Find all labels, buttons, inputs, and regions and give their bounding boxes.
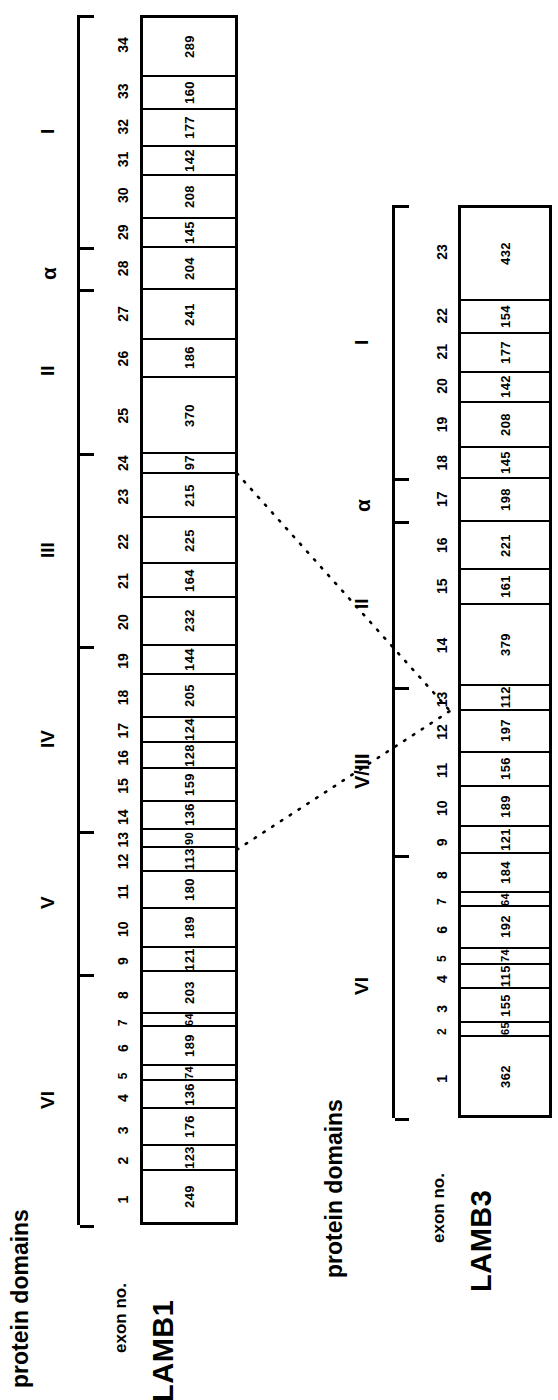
exon-number-label: 20 [428, 371, 456, 402]
domain-bracket-cap [80, 1225, 94, 1228]
exon-size-label: 221 [499, 534, 512, 557]
exon-box: 142 [143, 147, 235, 176]
domain-label: III [38, 524, 57, 576]
exon-box: 205 [143, 675, 235, 717]
exon-box: 208 [143, 176, 235, 219]
exon-box: 204 [143, 248, 235, 290]
gene-label-lamb3: LAMB3 [466, 1142, 496, 1292]
domain-label: α [352, 480, 373, 532]
domain-divider-tick [80, 974, 94, 977]
exon-box: 64 [143, 1014, 235, 1027]
domain-bracket-cap [80, 15, 94, 18]
exon-size-label: 115 [499, 965, 512, 987]
exon-number-label: 26 [108, 339, 138, 377]
exon-number-label: 6 [428, 909, 456, 951]
exon-box: 208 [461, 403, 549, 448]
exon-size-label: 123 [183, 1146, 196, 1169]
exon-size-label: 232 [183, 609, 196, 632]
exon-box: 90 [143, 830, 235, 849]
exon-box: 215 [143, 474, 235, 518]
exon-number-label: 21 [428, 332, 456, 370]
exon-size-label: 145 [183, 221, 196, 244]
exon-number-label: 23 [108, 474, 138, 518]
exon-number-label: 5 [108, 1068, 138, 1083]
exon-box: 197 [461, 711, 549, 754]
exon-number-label: 22 [428, 299, 456, 332]
domain-label: VI [352, 960, 371, 1012]
exon-box: 249 [143, 1171, 235, 1222]
exon-box: 145 [143, 219, 235, 249]
exon-size-label: 156 [499, 757, 512, 780]
exon-number-label: 11 [428, 754, 456, 788]
exon-size-label: 208 [499, 413, 512, 436]
exon-size-label: 225 [183, 529, 196, 552]
exon-size-label: 432 [499, 242, 512, 265]
exon-box: 164 [143, 564, 235, 598]
exon-size-label: 176 [183, 1115, 196, 1138]
exon-box: 176 [143, 1109, 235, 1145]
exon-box: 225 [143, 518, 235, 564]
exon-box: 432 [461, 208, 549, 301]
homology-dotted-line [237, 711, 450, 850]
exon-size-label: 160 [183, 81, 196, 104]
exon-number-axis-lamb1: 1234567891011121314151617181920212223242… [108, 15, 138, 1225]
exon-box: 113 [143, 848, 235, 871]
exon-number-label: 10 [428, 788, 456, 829]
domain-divider-tick [80, 831, 94, 834]
exon-box: 136 [143, 1081, 235, 1109]
exon-box: 203 [143, 972, 235, 1014]
exon-box: 121 [143, 948, 235, 973]
exon-size-label: 197 [499, 719, 512, 742]
domain-bracket-cap [395, 1118, 409, 1121]
exon-number-label: 31 [108, 145, 138, 174]
exon-number-label: 3 [428, 992, 456, 1026]
exon-box: 189 [461, 787, 549, 828]
exon-box: 221 [461, 522, 549, 570]
exon-box: 177 [461, 334, 549, 372]
exon-size-label: 189 [499, 795, 512, 818]
domain-divider-tick [80, 646, 94, 649]
domain-divider-tick [80, 453, 94, 456]
domain-label: I [38, 105, 57, 157]
exon-size-label: 186 [183, 346, 196, 369]
exon-number-label: 13 [428, 687, 456, 711]
exon-number-label: 7 [428, 895, 456, 909]
exon-number-label: 9 [428, 829, 456, 855]
exon-size-label: 64 [500, 893, 511, 906]
exon-box: 97 [143, 454, 235, 474]
exon-box: 112 [461, 686, 549, 710]
exon-size-label: 205 [183, 684, 196, 707]
exon-size-label: 198 [499, 488, 512, 511]
exon-number-label: 6 [108, 1029, 138, 1068]
domain-divider-tick [395, 855, 409, 858]
exon-number-label: 33 [108, 75, 138, 108]
exon-box: 65 [461, 1023, 549, 1037]
exon-size-label: 189 [183, 916, 196, 939]
exon-number-label: 14 [428, 604, 456, 686]
exon-number-label: 21 [108, 564, 138, 598]
figure-canvas: 1234567891011121314151617181920212223242… [0, 0, 558, 1400]
exon-size-label: 154 [499, 305, 512, 328]
exon-box: 189 [143, 1027, 235, 1066]
domain-label: α [38, 248, 59, 300]
exon-box: 160 [143, 77, 235, 110]
domain-label: IV [38, 713, 57, 765]
caption-exon-no-lamb3: exon no. [430, 1148, 448, 1243]
domain-label: I [352, 316, 371, 368]
exon-box: 241 [143, 290, 235, 340]
exon-number-label: 19 [108, 646, 138, 676]
exon-box: 184 [461, 854, 549, 894]
exon-size-label: 241 [183, 303, 196, 326]
domain-bracket-cap [395, 205, 409, 208]
exon-box: 379 [461, 605, 549, 687]
exon-box: 289 [143, 18, 235, 77]
exon-size-label: 204 [183, 257, 196, 280]
domain-bracket-lamb3 [392, 205, 395, 1118]
exon-box: 370 [143, 378, 235, 454]
exon-size-label: 142 [499, 375, 512, 398]
exon-box: 136 [143, 802, 235, 830]
domain-label: V/III [352, 735, 372, 807]
exon-number-label: 32 [108, 108, 138, 145]
exon-size-label: 155 [499, 994, 512, 1017]
exon-number-label: 1 [428, 1039, 456, 1118]
